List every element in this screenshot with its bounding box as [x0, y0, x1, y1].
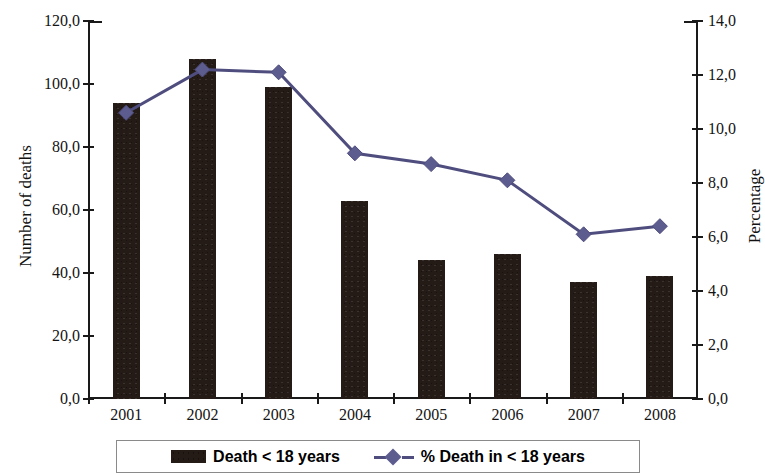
- y-axis-left-tick-label: 80,0: [26, 139, 80, 155]
- diamond-marker: [424, 157, 439, 172]
- y-axis-left-tick-label: 100,0: [26, 76, 80, 92]
- y-axis-right-tick-label: 10,0: [708, 121, 762, 137]
- chart-legend: Death < 18 years % Death in < 18 years: [116, 440, 640, 473]
- x-axis-tick-label: 2005: [401, 407, 461, 423]
- line-markers: [119, 62, 668, 242]
- line-marker-swatch-icon: [374, 450, 414, 464]
- legend-item-deaths: Death < 18 years: [171, 448, 340, 466]
- y-axis-left-tick-label: 0,0: [26, 391, 80, 407]
- legend-label-deaths: Death < 18 years: [213, 448, 340, 466]
- y-axis-right-tick-label: 12,0: [708, 67, 762, 83]
- y-axis-right-tick-label: 4,0: [708, 283, 762, 299]
- diamond-marker: [652, 219, 667, 234]
- legend-item-percentage: % Death in < 18 years: [374, 448, 585, 466]
- plot-area: [88, 21, 698, 399]
- x-axis-tick-label: 2002: [172, 407, 232, 423]
- diamond-marker-icon: [384, 448, 401, 465]
- line-path: [126, 70, 660, 235]
- x-axis-tick-label: 2001: [96, 407, 156, 423]
- x-axis-tick-label: 2006: [477, 407, 537, 423]
- y-axis-right-tick-label: 8,0: [708, 175, 762, 191]
- y-axis-right-tick-label: 0,0: [708, 391, 762, 407]
- y-axis-left-tick-label: 20,0: [26, 328, 80, 344]
- x-axis-tick-label: 2004: [325, 407, 385, 423]
- y-axis-left-tick-label: 120,0: [26, 13, 80, 29]
- x-axis-tick-label: 2007: [554, 407, 614, 423]
- y-axis-left-tick-label: 40,0: [26, 265, 80, 281]
- y-axis-right-tick-label: 2,0: [708, 337, 762, 353]
- x-axis-tick-label: 2008: [630, 407, 690, 423]
- line-series: [88, 21, 698, 399]
- y-axis-right-tick-label: 14,0: [708, 13, 762, 29]
- legend-label-percentage: % Death in < 18 years: [421, 448, 585, 466]
- y-axis-left-tick-label: 60,0: [26, 202, 80, 218]
- bar-swatch-icon: [171, 450, 206, 463]
- diamond-marker: [195, 62, 210, 77]
- x-axis-tick-label: 2003: [249, 407, 309, 423]
- diamond-marker: [119, 105, 134, 120]
- y-axis-right-tick-label: 6,0: [708, 229, 762, 245]
